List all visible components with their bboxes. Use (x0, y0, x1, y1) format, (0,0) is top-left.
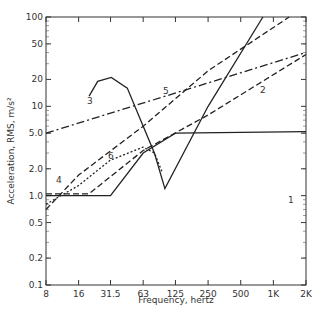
y-tick-label: 50 (32, 39, 44, 49)
series-6-label: 6 (108, 151, 114, 161)
x-axis-label: Frequency, hertz (138, 295, 214, 305)
y-tick-label: 100 (26, 12, 43, 22)
x-tick-label: 1K (268, 289, 281, 299)
y-tick-label: 0.5 (29, 218, 43, 228)
series-5-label: 5 (163, 86, 169, 96)
series-3-label: 3 (87, 96, 93, 106)
plot-frame (46, 17, 306, 285)
y-axis-label: Acceleration, RMS, m/s² (6, 97, 16, 205)
x-tick-label: 31.5 (101, 289, 121, 299)
x-tick-label: 500 (232, 289, 249, 299)
chart: 81631.5631252505001K2K0.10.20.51.02.05.0… (0, 0, 324, 319)
y-tick-label: 2.0 (29, 164, 44, 174)
y-tick-label: 0.2 (29, 253, 43, 263)
y-tick-label: 10 (32, 101, 44, 111)
y-tick-label: 5.0 (29, 128, 44, 138)
series-2-label: 2 (260, 85, 266, 95)
x-tick-label: 2K (300, 289, 313, 299)
series-3-line (89, 17, 263, 189)
series-1-line (46, 132, 306, 196)
y-tick-label: 20 (32, 74, 44, 84)
series-2-line (46, 55, 306, 194)
x-tick-label: 8 (43, 289, 49, 299)
y-tick-label: 1.0 (29, 191, 44, 201)
series-5-line (46, 53, 306, 134)
y-tick-label: 0.1 (29, 280, 43, 290)
x-tick-label: 16 (73, 289, 85, 299)
series-4-line (46, 17, 289, 210)
series-4-label: 4 (56, 175, 62, 185)
series-1-label: 1 (288, 195, 294, 205)
